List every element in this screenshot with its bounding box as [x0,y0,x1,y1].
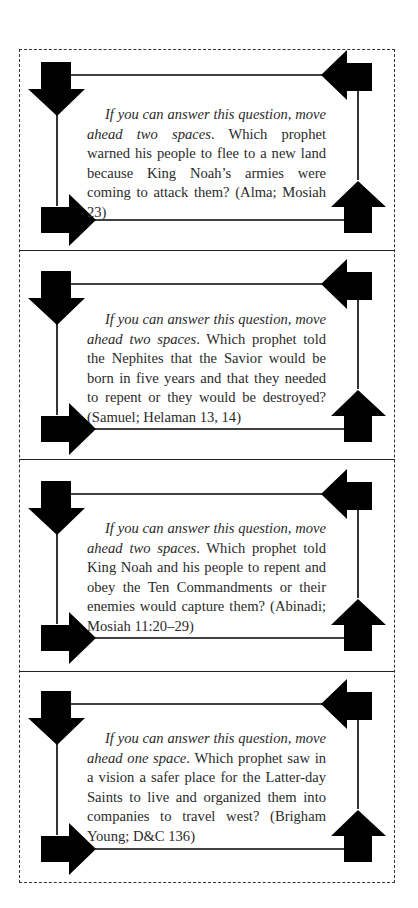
arrow-left-icon [321,469,372,519]
question-card-2[interactable]: If you can answer this question, move ah… [19,250,395,459]
arrow-left-icon [321,259,372,309]
card-text: If you can answer this question, move ah… [87,105,326,223]
arrow-down-icon [28,62,85,116]
question-card-1[interactable]: If you can answer this question, move ah… [19,49,395,250]
arrow-up-icon [331,390,386,442]
question-card-3[interactable]: If you can answer this question, move ah… [19,459,395,671]
arrow-up-icon [331,599,386,651]
arrow-down-icon [28,271,85,325]
card-text: If you can answer this question, move ah… [87,310,326,428]
arrow-down-icon [28,691,85,745]
card-text: If you can answer this question, move ah… [87,729,326,847]
card-text: If you can answer this question, move ah… [87,519,326,637]
arrow-down-icon [28,481,85,535]
arrow-left-icon [321,679,372,729]
arrow-left-icon [321,50,372,100]
question-card-4[interactable]: If you can answer this question, move ah… [19,671,395,883]
arrow-up-icon [331,181,386,233]
arrow-up-icon [331,810,386,862]
